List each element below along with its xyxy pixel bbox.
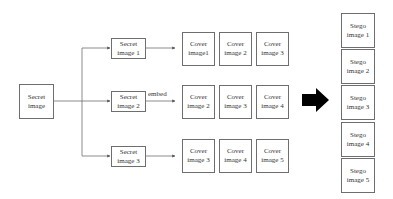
source-label: Secret image	[28, 93, 46, 111]
cover-label: Cover image 3	[187, 147, 209, 165]
cover-box: Cover image 3	[256, 32, 289, 66]
block-arrow-icon	[302, 88, 329, 112]
embed-label: embed	[148, 90, 167, 98]
cover-label: Cover image 5	[261, 147, 283, 165]
cover-box: Cover image 5	[256, 139, 289, 173]
cover-box: Cover image 3	[182, 139, 215, 173]
secret-image-1-box: Secret image 1	[111, 38, 146, 59]
stego-image-2-box: Stego image 2	[341, 49, 375, 84]
stego-label: Stego image 3	[347, 94, 369, 112]
stego-label: Stego image 4	[347, 131, 369, 149]
cover-label: Cover image 2	[187, 93, 209, 111]
cover-box: Cover image 2	[182, 85, 215, 119]
cover-label: Cover image 3	[224, 93, 246, 111]
secret-image-3-box: Secret image 3	[111, 146, 146, 167]
source-secret-image-box: Secret image	[19, 84, 54, 119]
cover-label: Cover image 4	[261, 93, 283, 111]
stego-label: Stego image 5	[347, 167, 369, 185]
stego-label: Stego image 2	[347, 58, 369, 76]
stego-image-5-box: Stego image 5	[341, 158, 375, 193]
secret-label: Secret image 3	[117, 148, 139, 166]
cover-label: Cover image1	[188, 40, 209, 58]
secret-image-2-box: Secret image 2	[111, 91, 146, 112]
cover-box: Cover image1	[182, 32, 215, 66]
stego-label: Stego image 1	[347, 22, 369, 40]
cover-box: Cover image 4	[256, 85, 289, 119]
secret-label: Secret image 2	[117, 93, 139, 111]
stego-image-3-box: Stego image 3	[341, 85, 375, 120]
cover-box: Cover image 4	[219, 139, 252, 173]
stego-image-1-box: Stego image 1	[341, 13, 375, 48]
cover-box: Cover image 3	[219, 85, 252, 119]
cover-box: Cover image 2	[219, 32, 252, 66]
secret-label: Secret image 1	[117, 40, 139, 58]
secret-sharing-diagram: Secret image Secret image 1 Secret image…	[0, 0, 393, 199]
cover-label: Cover image 2	[224, 40, 246, 58]
cover-label: Cover image 4	[224, 147, 246, 165]
cover-label: Cover image 3	[261, 40, 283, 58]
stego-image-4-box: Stego image 4	[341, 122, 375, 157]
